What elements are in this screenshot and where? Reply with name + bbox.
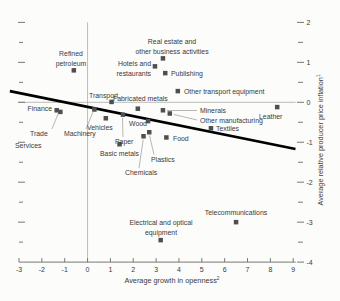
y-tick-label--3: -3 xyxy=(307,219,313,226)
x-tick-label-4: 4 xyxy=(177,266,181,273)
label-food: Food xyxy=(173,135,189,142)
x-axis-title: Average growth in openness2 xyxy=(124,276,219,285)
marker-publishing xyxy=(163,71,168,76)
y-tick-label-1: 1 xyxy=(307,59,311,66)
y-tick-label--4: -4 xyxy=(307,259,313,266)
x-tick-label-5: 5 xyxy=(200,266,204,273)
marker-textiles xyxy=(209,126,214,131)
label-refined-petroleum-line1: Refined xyxy=(59,50,83,57)
marker-real-estate-business-activities xyxy=(161,56,166,61)
label-services: Services xyxy=(15,142,42,149)
y-tick-label-0: 0 xyxy=(307,99,311,106)
label-plastics: Plastics xyxy=(151,156,175,163)
label-hotels-restaurants-line2: restaurants xyxy=(117,70,152,77)
label-paper: Paper xyxy=(115,138,134,146)
x-tick-label-6: 6 xyxy=(223,266,227,273)
marker-refined-petroleum xyxy=(72,68,77,73)
label-refined-petroleum-line2: petroleum xyxy=(56,60,87,68)
marker-hotels-restaurants xyxy=(153,64,158,69)
label-textiles: Textiles xyxy=(216,125,240,132)
label-electrical-optical-equipment-line1: Electrical and optical xyxy=(129,219,193,227)
y-tick-label--1: -1 xyxy=(307,139,313,146)
marker-fabricated-metals xyxy=(136,106,141,111)
marker-electrical-optical-equipment xyxy=(158,238,163,243)
marker-paper xyxy=(121,112,126,117)
label-trade: Trade xyxy=(30,130,48,137)
x-tick-label-9: 9 xyxy=(291,266,295,273)
marker-other-manufacturing xyxy=(168,111,173,116)
x-tick-label-7: 7 xyxy=(246,266,250,273)
scatter-chart: 210-1-2-3-4-3-2-10123456789Refinedpetrol… xyxy=(0,0,340,301)
label-minerals: Minerals xyxy=(200,107,227,114)
label-other-manufacturing: Other manufacturing xyxy=(200,117,263,125)
callout-plastics xyxy=(150,136,155,155)
x-tick-label--1: -1 xyxy=(62,266,68,273)
x-tick-label-1: 1 xyxy=(108,266,112,273)
callout-chemicals xyxy=(139,140,143,169)
chart-canvas: 210-1-2-3-4-3-2-10123456789Refinedpetrol… xyxy=(0,0,340,301)
marker-other-transport-equipment xyxy=(176,89,181,94)
marker-leather xyxy=(275,105,280,110)
x-tick-label-8: 8 xyxy=(268,266,272,273)
label-publishing: Publishing xyxy=(171,70,203,78)
x-tick-label--2: -2 xyxy=(39,266,45,273)
label-real-estate-business-activities-line2: other business activities xyxy=(135,48,209,55)
label-chemicals: Chemicals xyxy=(125,169,158,176)
label-fabricated-metals: Fabricated metals xyxy=(113,95,168,102)
label-leather: Leather xyxy=(259,113,283,120)
marker-plastics xyxy=(147,130,152,135)
label-other-transport-equipment: Other transport equipment xyxy=(184,88,265,96)
label-finance: Finance xyxy=(27,105,52,112)
marker-telecommunications xyxy=(234,220,239,225)
marker-trade xyxy=(58,110,63,115)
marker-minerals xyxy=(161,108,166,113)
label-machinery: Machinery xyxy=(64,130,96,138)
marker-chemicals xyxy=(141,134,146,139)
callout-paper xyxy=(123,118,124,137)
x-tick-label-0: 0 xyxy=(86,266,90,273)
label-vehicles: Vehicles xyxy=(87,124,113,131)
label-hotels-restaurants-line1: Hotels and xyxy=(118,60,151,67)
x-tick-label-2: 2 xyxy=(131,266,135,273)
x-tick-label--3: -3 xyxy=(16,266,22,273)
marker-machinery xyxy=(92,107,97,112)
label-real-estate-business-activities-line1: Real estate and xyxy=(148,38,196,45)
marker-food xyxy=(164,135,169,140)
x-tick-label-3: 3 xyxy=(154,266,158,273)
y-tick-label-2: 2 xyxy=(307,19,311,26)
label-telecommunications: Telecommunications xyxy=(205,209,268,216)
label-basic-metals: Basic metals xyxy=(100,150,140,157)
callout-trade xyxy=(52,114,58,129)
label-wood: Wood xyxy=(129,120,147,127)
y-tick-label--2: -2 xyxy=(307,179,313,186)
y-axis-title: Average relative producer price inflatio… xyxy=(316,74,325,205)
label-electrical-optical-equipment-line2: equipment xyxy=(145,229,177,237)
callout-other-manufacturing xyxy=(174,115,197,121)
marker-vehicles xyxy=(104,116,109,121)
